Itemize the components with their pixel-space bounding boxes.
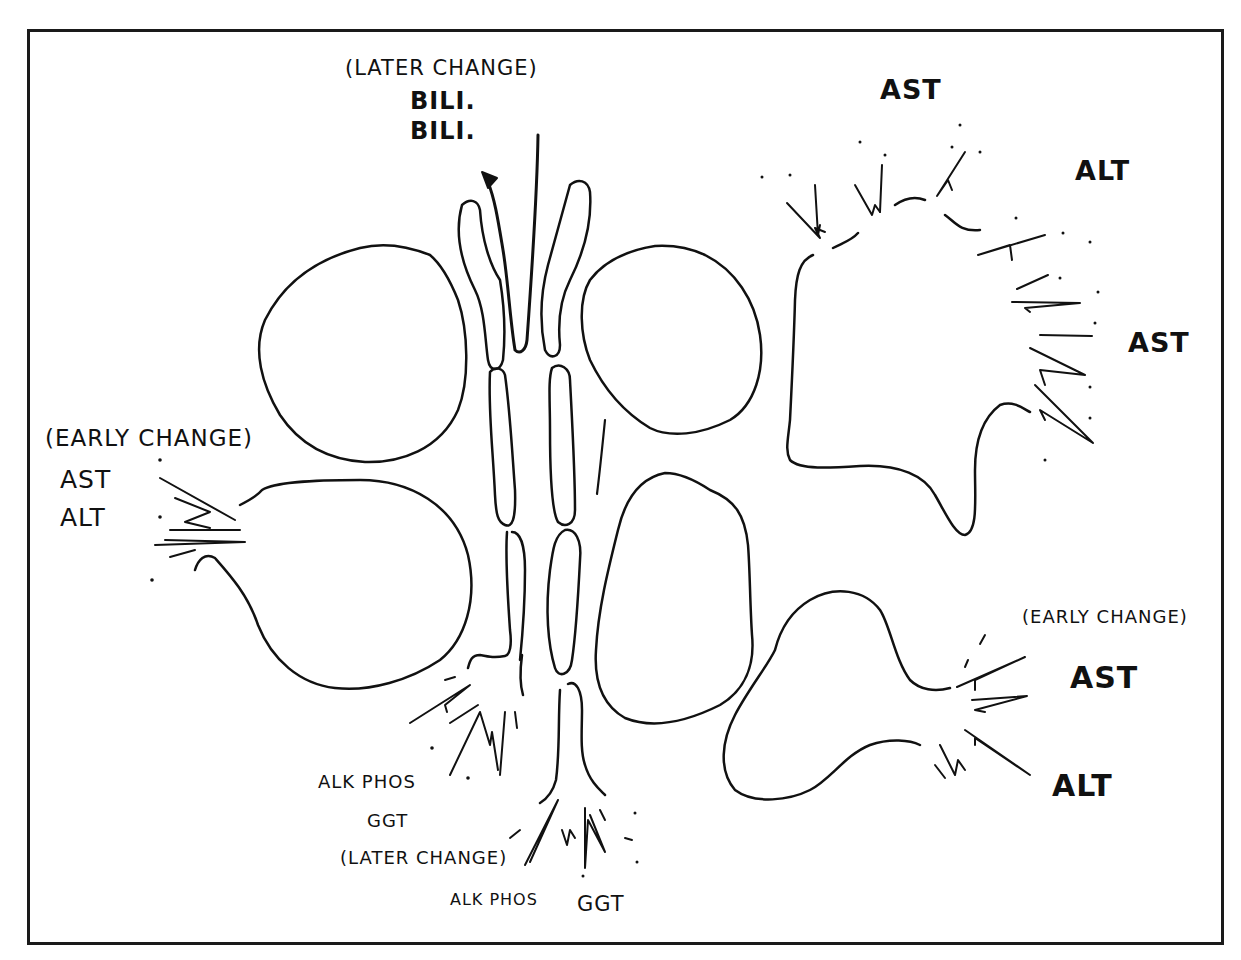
leak-lines-bottom-center bbox=[510, 800, 632, 868]
leak-lines-lower-right bbox=[935, 635, 1030, 778]
label-early-change-left: (EARLY CHANGE) bbox=[45, 425, 253, 451]
label-bili-1: BILI. bbox=[410, 87, 476, 115]
label-early-change-right: (EARLY CHANGE) bbox=[1022, 606, 1188, 627]
hepatocyte-upper-right bbox=[582, 246, 762, 434]
hepatocyte-lower-right bbox=[596, 473, 753, 723]
leak-lines-bottom-left bbox=[410, 677, 517, 775]
hepatocyte-damaged-top-right bbox=[787, 198, 1030, 535]
leak-lines-left bbox=[155, 478, 245, 557]
label-alt-bottom-right: ALT bbox=[1052, 768, 1113, 803]
hepatocyte-upper-left bbox=[259, 245, 466, 462]
label-later-change-top: (LATER CHANGE) bbox=[345, 56, 538, 80]
hepatocyte-lower-left bbox=[195, 480, 471, 689]
bile-flow-arrow bbox=[482, 135, 538, 352]
label-alkphos-bottom-center: ALK PHOS bbox=[450, 890, 538, 909]
label-later-change-bottom: (LATER CHANGE) bbox=[340, 847, 507, 868]
leak-lines-top-right bbox=[787, 152, 1093, 443]
label-alkphos-bottom-left: ALK PHOS bbox=[318, 771, 416, 792]
label-ast-left: AST bbox=[60, 465, 111, 494]
label-alt-left: ALT bbox=[60, 503, 106, 532]
label-ast-right: AST bbox=[1128, 327, 1190, 358]
label-bili-2: BILI. bbox=[410, 117, 476, 145]
label-ast-bottom-right: AST bbox=[1070, 660, 1138, 695]
label-ggt-bottom-left: GGT bbox=[367, 810, 408, 831]
hepatocyte-lower-right-leaking bbox=[724, 591, 950, 799]
label-ggt-bottom-center: GGT bbox=[577, 892, 625, 916]
liver-cell-diagram bbox=[0, 0, 1241, 960]
label-ast-top-right: AST bbox=[880, 74, 942, 105]
label-alt-top-right: ALT bbox=[1075, 155, 1130, 186]
